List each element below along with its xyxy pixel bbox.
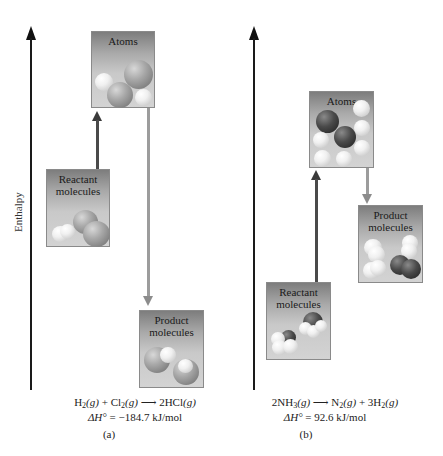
eq-term: Cl: [111, 396, 121, 408]
reaction-equation-a: H2(g) + Cl2(g) ⟶ 2HCl(g): [55, 396, 215, 409]
delta-h-value: 92.6 kJ/mol: [314, 411, 366, 423]
bond-breaking-arrow-b: [315, 179, 318, 282]
enthalpy-axis-label: Enthalpy: [12, 192, 24, 232]
hydrogen-atom-icon: [354, 140, 370, 156]
atoms-box-b: Atoms: [309, 91, 374, 168]
reactant-label-line2: molecules: [56, 185, 101, 197]
product-label: Product molecules: [359, 209, 422, 233]
bond-forming-arrow-a: [147, 108, 150, 298]
eq-state: (g): [125, 396, 138, 408]
reactant-box-b: Reactant molecules: [266, 282, 331, 360]
nitrogen-atom-icon: [401, 259, 421, 279]
bond-breaking-arrow-a: [96, 120, 99, 169]
enthalpy-axis-a: [30, 38, 32, 390]
reaction-equation-b: 2NH3(g) ⟶ N2(g) + 3H2(g): [250, 396, 420, 409]
eq-term: 3H: [368, 396, 381, 408]
product-box-b: Product molecules: [358, 205, 423, 283]
reaction-arrow-icon: ⟶: [310, 396, 331, 408]
panel-caption-b: (b): [250, 428, 362, 441]
reactant-label-line1: Reactant: [279, 286, 317, 298]
enthalpy-axis-b: [253, 38, 255, 390]
hydrogen-atom-icon: [313, 132, 329, 148]
hydrogen-atom-icon: [178, 359, 193, 373]
reactant-label-line1: Reactant: [59, 173, 97, 185]
panel-caption-a: (a): [55, 428, 163, 441]
eq-equals: =: [107, 411, 119, 423]
hydrogen-atom-icon: [354, 120, 370, 136]
eq-state: (g): [297, 396, 310, 408]
chlorine-atom-icon: [83, 221, 110, 247]
chlorine-atom-icon: [107, 82, 133, 108]
product-label: Product molecules: [140, 314, 203, 338]
product-label-line2: molecules: [368, 221, 413, 233]
eq-state: (g): [385, 396, 398, 408]
product-box-a: Product molecules: [139, 310, 204, 388]
eq-term: 2HCl: [159, 396, 183, 408]
delta-h-a: ΔH° = −184.7 kJ/mol: [55, 411, 215, 424]
delta-h-symbol: ΔH°: [284, 411, 303, 423]
eq-plus: +: [99, 396, 111, 408]
reactant-label: Reactant molecules: [47, 173, 109, 197]
product-label-line1: Product: [154, 314, 188, 326]
reaction-arrow-icon: ⟶: [138, 396, 159, 408]
hydrogen-atom-icon: [314, 150, 331, 167]
hydrogen-atom-icon: [336, 151, 352, 167]
reactant-label: Reactant molecules: [267, 286, 330, 310]
atoms-box-a: Atoms: [91, 31, 155, 108]
eq-term: 2NH: [272, 396, 293, 408]
reactant-box-a: Reactant molecules: [46, 169, 110, 247]
hydrogen-atom-icon: [135, 89, 152, 106]
eq-state: (g): [86, 396, 99, 408]
nitrogen-atom-icon: [334, 126, 356, 148]
atoms-label: Atoms: [92, 35, 154, 47]
product-label-line1: Product: [373, 209, 407, 221]
hydrogen-atom-icon: [283, 339, 298, 354]
hydrogen-atom-icon: [60, 224, 75, 239]
eq-equals: =: [303, 411, 315, 423]
hydrogen-atom-icon: [160, 347, 176, 363]
delta-h-b: ΔH° = 92.6 kJ/mol: [250, 411, 400, 424]
delta-h-value: −184.7 kJ/mol: [118, 411, 182, 423]
bond-forming-arrow-b: [366, 168, 369, 195]
down-arrow-head-icon: [362, 194, 372, 204]
delta-h-symbol: ΔH°: [88, 411, 107, 423]
eq-state: (g): [183, 396, 196, 408]
hydrogen-atom-icon: [353, 100, 370, 117]
eq-plus: +: [356, 396, 368, 408]
reactant-label-line2: molecules: [276, 298, 321, 310]
hydrogen-atom-icon: [370, 260, 386, 276]
eq-state: (g): [343, 396, 356, 408]
down-arrow-head-icon: [143, 296, 153, 306]
product-label-line2: molecules: [149, 326, 194, 338]
eq-term: H: [74, 396, 82, 408]
hydrogen-atom-icon: [315, 320, 327, 332]
